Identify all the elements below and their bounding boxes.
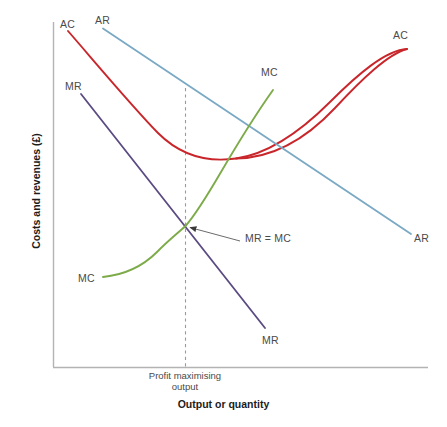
ac-label-left: AC [60,18,75,30]
profit-max-output-line2: output [120,381,250,392]
mc-label-left: MC [78,272,95,284]
mc-curve [103,90,273,277]
mr-label-left: MR [65,80,82,92]
mc-label-top: MC [261,66,278,78]
mr-label-bottom: MR [262,334,279,346]
economics-chart-figure: AC AR AC AR MR MR MC MC MR = MC Profit m… [0,0,447,427]
mr-equals-mc-label: MR = MC [245,232,291,244]
y-axis-title: Costs and revenues (£) [30,111,42,271]
chart-plot-area [0,0,447,427]
ar-label-left: AR [95,14,110,26]
x-axis-title: Output or quantity [0,398,447,410]
ac-curve [68,31,407,160]
ac-label-right: AC [393,29,408,41]
profit-max-output-annotation: Profit maximising output [120,370,250,392]
mr-line [81,94,265,328]
mr-equals-mc-leader-line [190,228,240,242]
ar-label-right: AR [414,232,429,244]
ar-line [103,29,411,235]
profit-max-output-line1: Profit maximising [120,370,250,381]
